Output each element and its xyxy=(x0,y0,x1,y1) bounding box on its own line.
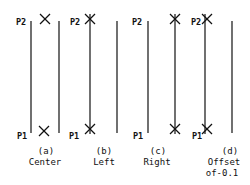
caption-letter: (d) xyxy=(222,146,238,156)
p2-x-marker-icon xyxy=(202,14,212,24)
p2-label: P2 xyxy=(191,17,201,27)
p1-label: P1 xyxy=(192,131,202,141)
caption-letter: (b) xyxy=(96,146,112,156)
caption-title: Center xyxy=(29,157,62,167)
panel-b-left: P2 P1 (b) Left xyxy=(69,14,117,167)
caption-title: Offset xyxy=(208,157,241,167)
p1-label: P1 xyxy=(69,131,79,141)
p2-label: P2 xyxy=(132,17,142,27)
p1-label: P1 xyxy=(17,131,27,141)
p2-label: P2 xyxy=(16,17,26,27)
p1-label: P1 xyxy=(133,131,143,141)
caption-title: Left xyxy=(93,157,115,167)
p1-x-marker-icon xyxy=(39,126,49,136)
justification-diagram: P2 P1 (a) Center P2 P1 (b) Left xyxy=(0,0,250,185)
panel-a-center: P2 P1 (a) Center xyxy=(16,14,62,167)
caption-letter: (c) xyxy=(150,146,166,156)
caption-title: Right xyxy=(143,157,170,167)
panel-c-right: P2 P1 (c) Right xyxy=(132,14,180,167)
p2-label: P2 xyxy=(70,17,80,27)
p2-x-marker-icon xyxy=(40,14,50,24)
caption-subtitle: of-0.1 xyxy=(206,168,239,178)
p1-x-marker-icon xyxy=(202,124,212,134)
caption-letter: (a) xyxy=(38,146,54,156)
panel-d-offset: P2 P1 (d) Offset of-0.1 xyxy=(191,14,240,178)
